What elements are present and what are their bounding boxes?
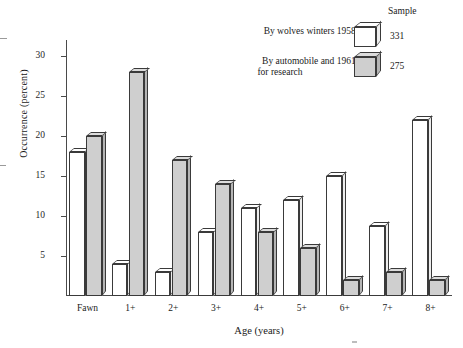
bar-1plus-series2 bbox=[129, 72, 145, 296]
bar-front-face bbox=[198, 232, 214, 296]
bar-side-face bbox=[102, 131, 106, 296]
bar-front-face bbox=[343, 280, 359, 296]
bar-front-face bbox=[155, 272, 171, 296]
legend-label: By automobile and 1961–65for research bbox=[190, 56, 370, 78]
y-tick-label: 10 bbox=[5, 211, 45, 221]
bar-front-face bbox=[283, 200, 299, 296]
bar-4plus-series1 bbox=[241, 208, 257, 296]
bar-side-face bbox=[230, 179, 234, 296]
bar-front-face bbox=[429, 280, 445, 296]
legend-cube-front bbox=[354, 57, 376, 77]
bar-1plus-series1 bbox=[112, 264, 128, 296]
bar-side-face bbox=[187, 155, 191, 296]
bar-side-face bbox=[316, 243, 320, 296]
bar-7plus-series2 bbox=[386, 272, 402, 296]
bar-front-face bbox=[369, 226, 385, 296]
x-category-label-3plus: 3+ bbox=[195, 303, 238, 313]
x-category-label-1plus: 1+ bbox=[109, 303, 152, 313]
legend-sample-header: Sample bbox=[388, 6, 417, 16]
x-category-label-4plus: 4+ bbox=[238, 303, 281, 313]
bar-front-face bbox=[172, 160, 188, 296]
bar-front-face bbox=[300, 248, 316, 296]
bar-6plus-series2 bbox=[343, 280, 359, 296]
x-category-label-2plus: 2+ bbox=[152, 303, 195, 313]
bar-4plus-series2 bbox=[258, 232, 274, 296]
legend-cube-front bbox=[354, 27, 376, 47]
bar-5plus-series2 bbox=[300, 248, 316, 296]
white-cube-icon bbox=[354, 27, 376, 47]
x-category-label-8plus: 8+ bbox=[409, 303, 452, 313]
bar-5plus-series1 bbox=[283, 200, 299, 296]
bar-front-face bbox=[215, 184, 231, 296]
bar-2plus-series2 bbox=[172, 160, 188, 296]
bar-7plus-series1 bbox=[369, 226, 385, 296]
bar-front-face bbox=[386, 272, 402, 296]
bar-8plus-series2 bbox=[429, 280, 445, 296]
bar-side-face bbox=[428, 115, 432, 296]
y-tick-label: 5 bbox=[5, 251, 45, 261]
legend-row-2: By automobile and 1961–65for research275 bbox=[198, 56, 456, 82]
gray-cube-icon bbox=[354, 57, 376, 77]
bar-chart: 51015202530 Occurrence (percent) Age (ye… bbox=[0, 0, 463, 348]
x-category-label-7plus: 7+ bbox=[366, 303, 409, 313]
bar-front-face bbox=[86, 136, 102, 296]
legend-sample-value: 275 bbox=[390, 61, 404, 71]
bar-fawn-series2 bbox=[86, 136, 102, 296]
bar-front-face bbox=[129, 72, 145, 296]
x-axis-title: Age (years) bbox=[66, 325, 452, 336]
bar-front-face bbox=[412, 120, 428, 296]
y-axis-title: Occurrence (percent) bbox=[18, 39, 29, 189]
legend-label: By wolves winters 1958–65 bbox=[190, 26, 370, 37]
bar-2plus-series1 bbox=[155, 272, 171, 296]
bar-front-face bbox=[241, 208, 257, 296]
bar-side-face bbox=[273, 227, 277, 296]
bar-side-face bbox=[144, 67, 148, 296]
bar-front-face bbox=[112, 264, 128, 296]
x-category-label-5plus: 5+ bbox=[280, 303, 323, 313]
legend-row-1: By wolves winters 1958–65331 bbox=[198, 26, 456, 52]
bar-front-face bbox=[69, 152, 85, 296]
legend: Sample By wolves winters 1958–65331By au… bbox=[198, 8, 456, 84]
bar-3plus-series1 bbox=[198, 232, 214, 296]
bar-front-face bbox=[258, 232, 274, 296]
bar-front-face bbox=[326, 176, 342, 296]
legend-sample-value: 331 bbox=[390, 31, 404, 41]
x-category-label-fawn: Fawn bbox=[66, 303, 109, 313]
scan-artifact bbox=[352, 341, 357, 343]
x-category-label-6plus: 6+ bbox=[323, 303, 366, 313]
bar-3plus-series2 bbox=[215, 184, 231, 296]
bar-6plus-series1 bbox=[326, 176, 342, 296]
y-axis-ticks: 51015202530 bbox=[0, 0, 61, 348]
bar-8plus-series1 bbox=[412, 120, 428, 296]
bar-fawn-series1 bbox=[69, 152, 85, 296]
legend-label-line2: for research bbox=[190, 67, 370, 78]
